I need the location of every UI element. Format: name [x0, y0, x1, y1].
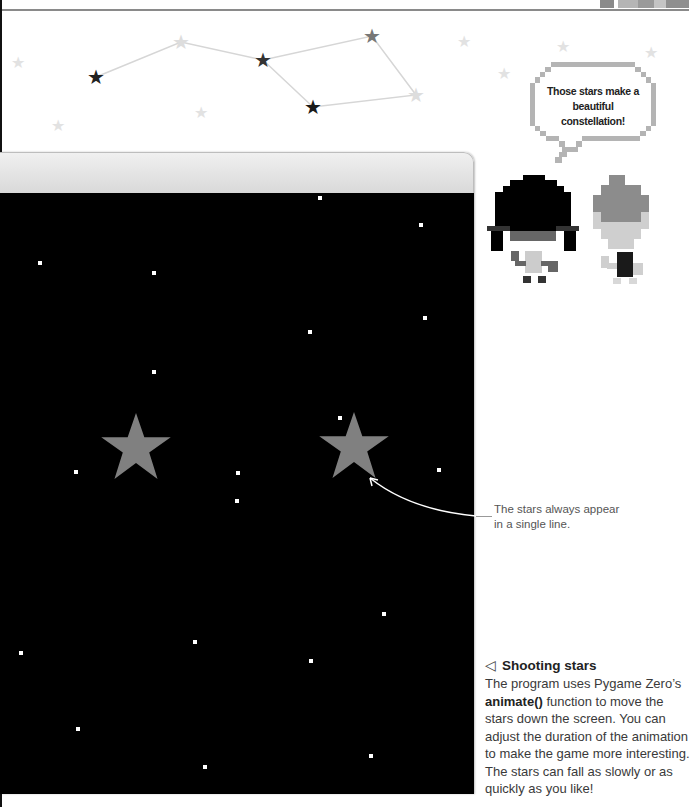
annotation-leader-line: [476, 516, 492, 517]
left-triangle-icon: ◁: [485, 658, 496, 673]
caption-shooting-stars: ◁Shooting stars The program uses Pygame …: [485, 657, 690, 798]
caption-body: The program uses Pygame Zero’s animate()…: [485, 675, 690, 798]
annotation-text: The stars always appear in a single line…: [494, 502, 619, 532]
caption-title: ◁Shooting stars: [485, 657, 690, 673]
